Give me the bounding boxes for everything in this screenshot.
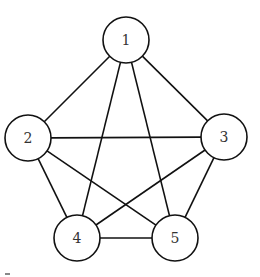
edges-group [38, 56, 214, 238]
edge-3-5 [185, 158, 214, 218]
node-label: 2 [24, 130, 33, 146]
nodes-group: 12345 [5, 17, 247, 261]
node-2: 2 [5, 115, 51, 161]
edge-2-4 [38, 159, 67, 218]
edge-1-3 [142, 56, 207, 121]
edge-1-4 [83, 62, 121, 215]
edge-1-2 [44, 56, 109, 121]
graph-canvas: 12345 [0, 0, 260, 277]
node-label: 4 [73, 230, 82, 246]
node-5: 5 [152, 215, 198, 261]
edge-3-4 [96, 150, 205, 225]
corner-mark [5, 273, 10, 275]
node-4: 4 [54, 215, 100, 261]
node-label: 1 [122, 32, 131, 48]
edge-2-5 [47, 151, 156, 225]
node-label: 5 [171, 230, 180, 246]
node-3: 3 [201, 114, 247, 160]
node-label: 3 [220, 129, 229, 145]
edge-2-3 [51, 137, 201, 138]
edge-1-5 [132, 62, 170, 215]
node-1: 1 [103, 17, 149, 63]
